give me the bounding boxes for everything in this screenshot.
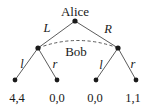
action-label-bob-right-l: l <box>99 59 102 72</box>
node-terminal-rr <box>134 78 139 83</box>
action-label-alice-left: L <box>44 22 51 35</box>
payoff-label-ll: 4,4 <box>9 92 25 105</box>
node-terminal-lr <box>55 78 60 83</box>
node-terminal-rl <box>94 78 99 83</box>
game-tree-figure: Alice Bob L R l r l r 4,4 0,0 0,0 1,1 <box>0 0 151 110</box>
payoff-label-lr: 0,0 <box>49 92 65 105</box>
action-label-bob-left-r: r <box>53 58 58 71</box>
node-terminal-ll <box>13 78 18 83</box>
edge-bobleft-l <box>15 48 38 80</box>
node-bob-left <box>35 45 40 50</box>
node-bob-right <box>115 45 120 50</box>
action-label-alice-right: R <box>104 23 112 36</box>
payoff-label-rr: 1,1 <box>125 92 141 105</box>
action-label-bob-left-l: l <box>20 58 23 71</box>
player-label-bob: Bob <box>65 45 87 58</box>
node-alice-root <box>72 18 77 23</box>
payoff-label-rl: 0,0 <box>87 92 103 105</box>
player-label-alice: Alice <box>61 5 89 18</box>
action-label-bob-right-r: r <box>131 58 136 71</box>
